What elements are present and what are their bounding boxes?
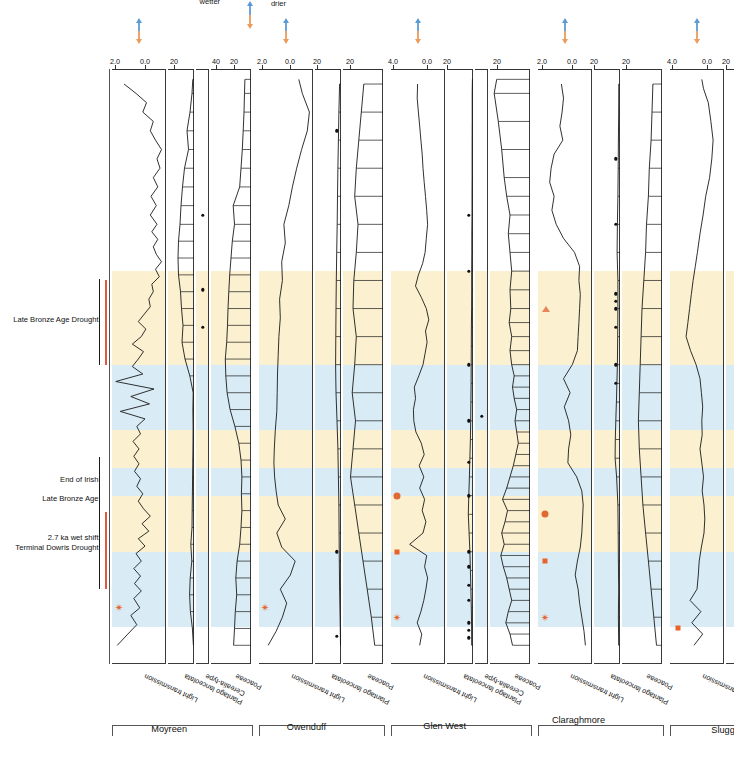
wetness-arrow-pair [405,18,431,44]
marker-star: ✴ [259,603,270,612]
panel-right-axis [168,69,194,70]
panel-right-axis [259,69,313,70]
panel-right-axis [670,69,724,70]
panel-right-axis [622,69,662,70]
series-line [538,70,592,664]
site-name: Owenduff [287,722,326,732]
wetness-arrow-pair [684,18,710,44]
series-bars [343,70,383,664]
event-label: End of Irish [60,475,98,484]
marker-tri [542,306,550,312]
event-red-bar [105,512,107,589]
panel-right-axis [538,69,592,70]
panel-right-axis [490,69,530,70]
site-name: Moyreen [151,724,187,734]
event-rule [99,511,100,589]
event-label: 2.7 ka wet shift [48,533,99,542]
series-bars [447,70,473,664]
marker-star: ✴ [391,613,402,622]
event-label: Late Bronze Age [42,494,98,503]
panel-right-axis [391,69,445,70]
panel-right-axis [211,69,251,70]
series-dots [475,70,488,664]
panel-right-axis [343,69,383,70]
panel-claraghmore-plantago-lanceolata [594,70,620,664]
site-name: Claraghmore [552,715,605,725]
panel-glen-west-poaceae [490,70,530,664]
series-line [391,70,445,664]
event-rule [99,457,100,513]
panel-moyreen-poaceae [211,70,251,664]
series-bars [622,70,662,664]
series-bars [315,70,341,664]
panel-moyreen-plantago-lanceolata [168,70,194,664]
marker-circle [393,492,400,499]
panel-right-axis [594,69,620,70]
marker-square [542,559,547,564]
wetness-arrow-pair [273,18,299,44]
panel-label: Light transmission [700,672,734,705]
panel-sluggan-light-transmission [670,70,724,664]
marker-star: ✴ [113,603,124,612]
series-dots [196,70,209,664]
wetness-legend-arrows [235,0,265,30]
panel-right-axis [475,69,488,70]
marker-star: ✴ [539,613,550,622]
event-red-bar [105,280,107,364]
series-bars [211,70,251,664]
wetness-arrow-pair [126,18,152,44]
marker-square [394,549,399,554]
wetness-arrow-pair [552,18,578,44]
legend-label-drier: drier [271,0,286,8]
series-bars [726,70,734,664]
panel-right-axis [112,69,166,70]
series-line [112,70,166,664]
panel-glen-west-light-transmission: ✴ [391,70,445,664]
panel-right-axis [196,69,209,70]
event-rule [99,279,100,365]
site-bracket [538,725,664,736]
panel-owenduff-light-transmission: ✴ [259,70,313,664]
series-line [259,70,313,664]
top-spine [109,69,110,664]
site-name: Sluggan [711,725,734,735]
panel-moyreen-cerealia-type [196,70,209,664]
panel-claraghmore-poaceae [622,70,662,664]
site-name: Glen West [423,721,466,731]
panel-right-axis [447,69,473,70]
panel-glen-west-plantago-lanceolata [447,70,473,664]
panel-sluggan-plantago-lanceolata [726,70,734,664]
panel-right-axis [726,69,734,70]
panel-glen-west-cerealia-type [475,70,488,664]
panel-owenduff-plantago-lanceolata [315,70,341,664]
legend-label-wetter: wetter [199,0,220,6]
marker-square [675,626,680,631]
panel-claraghmore-light-transmission: ✴ [538,70,592,664]
series-line [670,70,724,664]
panel-moyreen-light-transmission: ✴ [112,70,166,664]
panel-right-axis [315,69,341,70]
series-bars [490,70,530,664]
event-label: Terminal Dowris Drought [15,543,98,552]
marker-circle [541,511,548,518]
panel-owenduff-poaceae [343,70,383,664]
series-bars [168,70,194,664]
event-label: Late Bronze Age Drought [13,315,98,324]
